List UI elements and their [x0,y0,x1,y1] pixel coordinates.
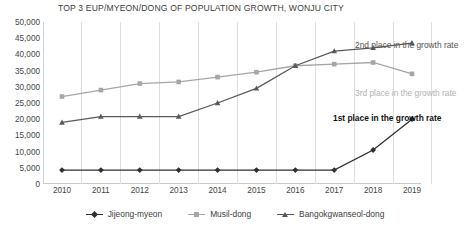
data-point-marker [176,167,182,173]
data-point-marker [332,62,337,67]
data-point-marker [410,72,415,77]
x-axis-tick-label: 2010 [53,186,71,195]
population-growth-line-chart: TOP 3 EUP/MYEON/DONG OF POPULATION GROWT… [0,0,470,232]
data-point-marker [331,167,337,173]
triangle-marker-icon [277,210,294,219]
x-axis-tick-label: 2019 [403,186,421,195]
data-point-marker [59,167,65,173]
legend-item-musil-dong[interactable]: Musil-dong [188,209,251,219]
x-axis-tick-label: 2012 [131,186,149,195]
data-point-marker [215,75,220,80]
legend-label: Musil-dong [210,209,251,219]
y-axis-tick-label: 40,000 [15,50,40,59]
annotation-third-place: 3rd place in the growth rate [355,88,457,98]
data-point-marker [98,167,104,173]
series-line-bangokgwanseol-dong [62,43,412,122]
legend-item-jijeong-myeon[interactable]: Jijeong-myeon [86,209,162,219]
x-axis-tick-labels: 2010201120122013201420152016201720182019 [43,186,421,200]
diamond-marker-icon [86,210,103,219]
y-axis-tick-label: 10,000 [15,147,40,156]
y-axis-tick-label: 15,000 [15,131,40,140]
legend-label: Jijeong-myeon [108,209,162,219]
square-marker-icon [188,210,205,219]
x-axis-tick-label: 2013 [170,186,188,195]
legend-item-bangokgwanseol-dong[interactable]: Bangokgwanseol-dong [277,209,384,219]
y-axis-tick-label: 45,000 [15,34,40,43]
data-point-marker [215,167,221,173]
data-point-marker [99,88,104,93]
x-axis-tick-label: 2015 [247,186,265,195]
x-axis-tick-label: 2017 [325,186,343,195]
chart-title: TOP 3 EUP/MYEON/DONG OF POPULATION GROWT… [58,3,344,13]
x-axis-tick-label: 2011 [92,186,110,195]
data-point-marker [254,70,259,75]
y-axis-tick-label: 35,000 [15,66,40,75]
x-axis-tick-label: 2016 [286,186,304,195]
y-axis-tick-label: 20,000 [15,115,40,124]
y-axis-tick-labels: 50,00045,00040,00035,00030,00025,00020,0… [0,22,40,184]
y-axis-tick-label: 5,000 [20,163,41,172]
x-axis-tick-label: 2018 [364,186,382,195]
data-point-marker [371,60,376,65]
data-point-marker [176,80,181,85]
series-line-jijeong-myeon [62,119,412,170]
y-axis-tick-label: 0 [35,180,40,189]
legend-label: Bangokgwanseol-dong [299,209,384,219]
data-point-marker [60,94,65,99]
y-axis-tick-label: 25,000 [15,99,40,108]
data-point-marker [292,167,298,173]
annotation-first-place: 1st place in the growth rate [333,113,441,123]
data-point-marker [137,167,143,173]
annotation-second-place: 2nd place in the growth rate [355,40,458,50]
y-axis-tick-label: 30,000 [15,82,40,91]
data-point-marker [254,167,260,173]
data-point-marker [137,81,142,86]
x-axis-tick-label: 2014 [208,186,226,195]
chart-legend: Jijeong-myeonMusil-dongBangokgwanseol-do… [0,209,470,219]
y-axis-tick-label: 50,000 [15,18,40,27]
